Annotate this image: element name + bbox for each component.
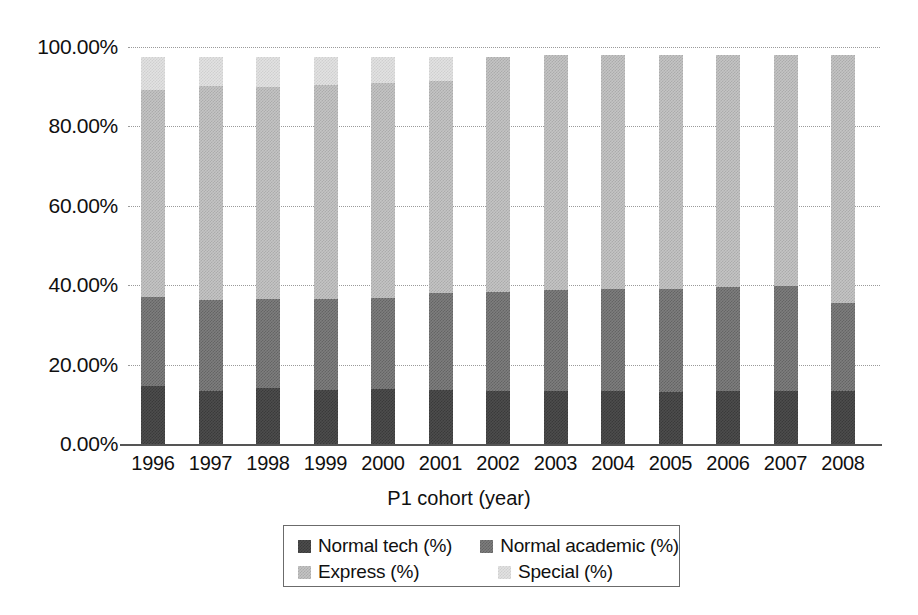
legend-item-special[interactable]: Special (%) <box>498 561 613 583</box>
y-axis: 100.00%80.00%60.00%40.00%20.00%0.00% <box>10 0 118 615</box>
bar-segment <box>141 386 165 444</box>
bar-segment <box>659 55 683 289</box>
legend-item-express[interactable]: Express (%) <box>298 561 498 583</box>
legend-item-normal-academic[interactable]: Normal academic (%) <box>480 535 679 557</box>
bar-segment <box>314 299 338 390</box>
bar-2001[interactable] <box>429 57 453 444</box>
x-axis-tick-label: 2001 <box>414 452 468 475</box>
x-axis-tick-label: 1997 <box>184 452 238 475</box>
legend-row: Normal tech (%) Normal academic (%) <box>298 533 679 559</box>
bar-segment <box>774 55 798 286</box>
x-axis-tick-label: 2004 <box>586 452 640 475</box>
legend-label-special: Special (%) <box>518 561 613 583</box>
y-axis-tick-label: 80.00% <box>10 114 118 138</box>
bar-2003[interactable] <box>544 55 568 444</box>
legend-swatch-special-icon <box>498 566 511 579</box>
bar-segment <box>601 55 625 289</box>
bar-segment <box>544 55 568 290</box>
bar-segment <box>659 289 683 392</box>
y-axis-tick-label: 0.00% <box>10 432 118 456</box>
y-axis-tick-label: 100.00% <box>10 35 118 59</box>
bar-segment <box>371 83 395 298</box>
bar-segment <box>429 390 453 444</box>
bar-1999[interactable] <box>314 57 338 444</box>
bar-segment <box>716 287 740 391</box>
bar-2006[interactable] <box>716 55 740 444</box>
bar-segment <box>831 391 855 444</box>
bar-segment <box>601 391 625 444</box>
bar-segment <box>774 391 798 444</box>
bar-segment <box>371 389 395 444</box>
x-axis-tick-label: 1998 <box>241 452 295 475</box>
bar-2005[interactable] <box>659 55 683 444</box>
x-axis-tick-label: 2005 <box>644 452 698 475</box>
bar-2000[interactable] <box>371 57 395 444</box>
legend-label-normal-academic: Normal academic (%) <box>500 535 679 557</box>
x-axis-tick-label: 2007 <box>759 452 813 475</box>
bar-segment <box>716 391 740 444</box>
bar-segment <box>371 57 395 83</box>
bar-2007[interactable] <box>774 55 798 444</box>
bar-segment <box>199 86 223 300</box>
bar-segment <box>486 57 510 292</box>
bar-segment <box>601 289 625 391</box>
bar-2002[interactable] <box>486 57 510 444</box>
legend-item-normal-tech[interactable]: Normal tech (%) <box>298 535 480 557</box>
legend-label-express: Express (%) <box>318 561 419 583</box>
x-axis-tick-label: 2008 <box>816 452 870 475</box>
x-axis-tick-label: 1996 <box>126 452 180 475</box>
gridline <box>128 47 880 48</box>
plot-area <box>128 47 880 444</box>
x-axis-tick-label: 1999 <box>299 452 353 475</box>
bar-segment <box>314 390 338 444</box>
bar-segment <box>716 55 740 287</box>
bar-segment <box>199 57 223 86</box>
bar-segment <box>544 391 568 444</box>
bar-segment <box>314 57 338 85</box>
bar-segment <box>314 85 338 299</box>
bar-2008[interactable] <box>831 55 855 444</box>
legend-row: Express (%) Special (%) <box>298 559 679 585</box>
bar-segment <box>831 303 855 391</box>
legend-swatch-normal-tech-icon <box>298 540 311 553</box>
bar-segment <box>199 300 223 391</box>
y-axis-tick-label: 20.00% <box>10 353 118 377</box>
x-axis-tick-label: 2002 <box>471 452 525 475</box>
bar-segment <box>256 87 280 299</box>
legend-swatch-express-icon <box>298 566 311 579</box>
bar-segment <box>429 57 453 81</box>
bar-segment <box>256 388 280 444</box>
x-axis-line <box>120 444 882 446</box>
bar-2004[interactable] <box>601 55 625 444</box>
legend-swatch-normal-academic-icon <box>480 540 493 553</box>
bar-segment <box>199 391 223 444</box>
bar-segment <box>429 293 453 390</box>
x-axis-title: P1 cohort (year) <box>0 487 918 510</box>
bar-segment <box>486 292 510 391</box>
bar-segment <box>429 81 453 293</box>
bar-segment <box>141 90 165 297</box>
chart-legend: Normal tech (%) Normal academic (%) Expr… <box>283 525 680 587</box>
bar-segment <box>486 391 510 444</box>
bar-segment <box>256 299 280 388</box>
bar-segment <box>774 286 798 390</box>
y-axis-tick-label: 60.00% <box>10 194 118 218</box>
bar-1998[interactable] <box>256 57 280 444</box>
bar-segment <box>256 57 280 87</box>
x-axis-tick-label: 2003 <box>529 452 583 475</box>
x-axis-tick-label: 2006 <box>701 452 755 475</box>
bar-segment <box>659 392 683 444</box>
bar-1996[interactable] <box>141 57 165 444</box>
legend-label-normal-tech: Normal tech (%) <box>318 535 452 557</box>
y-axis-tick-label: 40.00% <box>10 273 118 297</box>
stacked-bar-chart: 100.00%80.00%60.00%40.00%20.00%0.00% 199… <box>0 0 918 615</box>
bar-1997[interactable] <box>199 57 223 444</box>
bar-segment <box>371 298 395 389</box>
bar-segment <box>544 290 568 391</box>
bar-segment <box>141 57 165 90</box>
bar-segment <box>831 55 855 303</box>
x-axis-tick-label: 2000 <box>356 452 410 475</box>
bar-segment <box>141 297 165 386</box>
